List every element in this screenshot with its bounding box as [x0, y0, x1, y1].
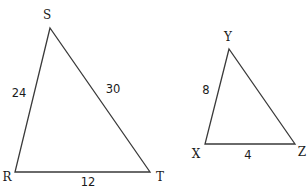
vertex-label-z: Z [298, 145, 306, 159]
triangle-xyz-shape [205, 49, 295, 144]
side-label-st: 30 [106, 82, 121, 96]
side-label-rt: 12 [81, 175, 96, 189]
vertex-label-s: S [43, 8, 51, 22]
similar-triangles-diagram: S R T 24 30 12 Y X Z 8 4 [0, 0, 307, 189]
vertex-label-x: X [192, 147, 201, 161]
triangle-xyz: Y X Z 8 4 [192, 30, 306, 162]
side-label-rs: 24 [12, 86, 27, 100]
side-label-xz: 4 [244, 148, 251, 162]
side-label-xy: 8 [202, 83, 209, 97]
vertex-label-r: R [2, 170, 12, 184]
triangle-rst: S R T 24 30 12 [2, 8, 164, 189]
triangle-rst-shape [15, 28, 150, 172]
vertex-label-y: Y [223, 30, 233, 44]
vertex-label-t: T [156, 170, 164, 184]
